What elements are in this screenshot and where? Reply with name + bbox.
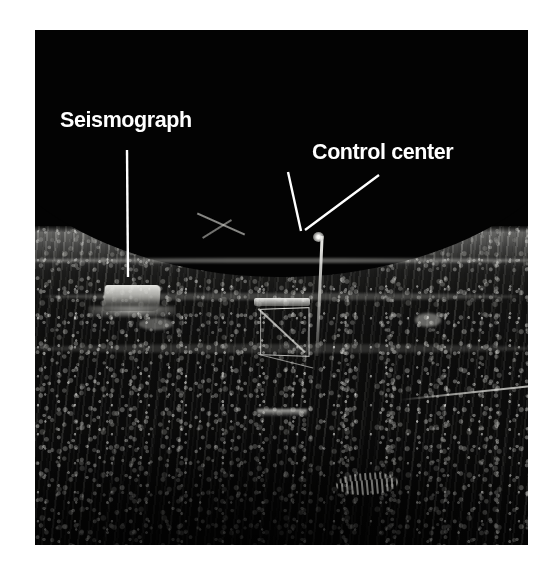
callout-label-control-center: Control center	[312, 142, 453, 164]
callout-label-seismograph: Seismograph	[60, 110, 192, 132]
terrain-ridge-far	[35, 258, 528, 263]
seismograph-instrument	[103, 285, 161, 311]
curved-horizon-mask	[35, 30, 528, 277]
antenna-hub	[313, 232, 324, 242]
terrain-boulder-right	[415, 313, 441, 327]
foreground-shadow	[35, 417, 528, 545]
page-root: Seismograph Control center	[0, 0, 549, 570]
control-center-deck	[254, 298, 310, 306]
control-center-base	[257, 409, 307, 416]
